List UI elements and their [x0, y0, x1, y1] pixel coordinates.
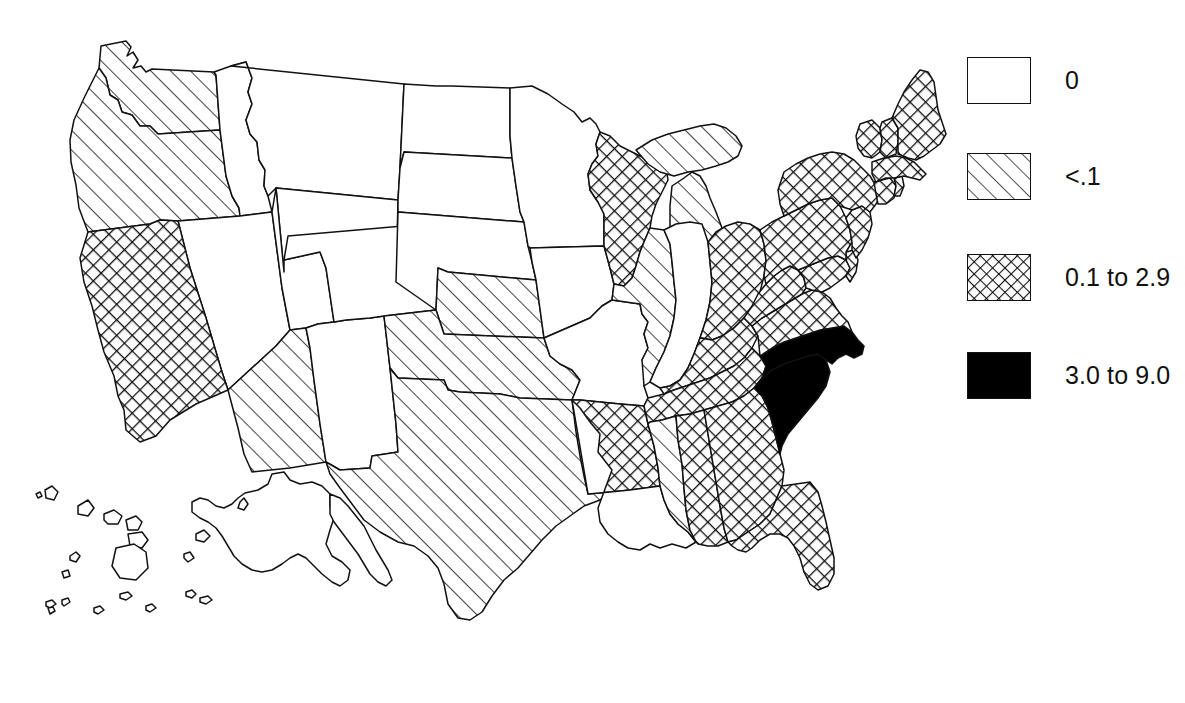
legend: 0 <.1 0.1 to 2.9 3.0 — [960, 46, 1185, 396]
legend-label-under-point-one: <.1 — [1065, 162, 1101, 191]
legend-item-under-point-one: <.1 — [960, 152, 1185, 200]
legend-item-three-to-nine: 3.0 to 9.0 — [960, 351, 1185, 399]
state-HI — [36, 486, 148, 580]
state-NJ — [846, 206, 872, 258]
us-map — [0, 0, 950, 703]
map-figure: 0 <.1 0.1 to 2.9 3.0 — [0, 0, 1185, 703]
legend-swatch-point-one-to-two-nine — [967, 254, 1031, 301]
legend-item-point-one-to-two-nine: 0.1 to 2.9 — [960, 253, 1185, 301]
state-SD — [398, 152, 524, 222]
aleutian-small-2 — [196, 530, 210, 542]
legend-label-three-to-nine: 3.0 to 9.0 — [1065, 361, 1170, 390]
map-svg — [0, 0, 950, 703]
legend-item-zero: 0 — [960, 56, 1185, 104]
state-ME — [892, 70, 946, 160]
state-MN — [510, 86, 604, 248]
legend-swatch-zero — [967, 57, 1031, 104]
legend-swatch-under-point-one — [967, 153, 1031, 200]
legend-swatch-three-to-nine — [967, 352, 1031, 399]
aleutian-small — [184, 552, 194, 562]
state-VT — [856, 120, 882, 158]
legend-label-point-one-to-two-nine: 0.1 to 2.9 — [1065, 263, 1170, 292]
legend-label-zero: 0 — [1065, 66, 1079, 95]
state-AK — [192, 472, 350, 586]
state-RI — [894, 176, 904, 196]
